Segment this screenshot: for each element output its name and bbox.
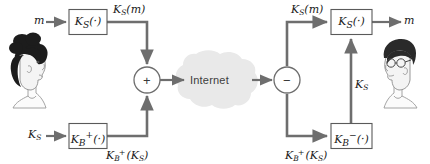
split-operator-label: − xyxy=(283,74,291,87)
box-encrypt-session-key-label: KB+(·) xyxy=(69,130,107,147)
box-decrypt-session-key-label: KB−(·) xyxy=(331,130,372,147)
combine-operator-label: + xyxy=(143,74,151,87)
edge-splitter-to-decrypt-key xyxy=(287,94,327,136)
edge-encrypted-key-to-adder xyxy=(107,96,147,136)
edge-label-encrypted-key-right: KB+(KS) xyxy=(285,150,327,161)
output-message-label: m xyxy=(404,15,414,26)
edge-label-encrypted-message-right: KS(m) xyxy=(291,4,323,15)
input-session-key-label: KS xyxy=(28,129,41,140)
edge-label-encrypted-message-left: KS(m) xyxy=(113,4,145,15)
edge-encrypted-message-to-adder xyxy=(107,22,147,64)
edge-label-recovered-session-key: KS xyxy=(355,79,368,90)
box-encrypt-message-label: KS(·) xyxy=(69,16,107,29)
internet-label: Internet xyxy=(190,74,229,86)
crypto-session-key-diagram: m KS KS(·) KB+(·) KS(·) KB−(·) KS(m) KB+… xyxy=(0,0,430,164)
edge-splitter-to-decrypt-message xyxy=(287,22,327,66)
edge-label-encrypted-key-left: KB+(KS) xyxy=(106,150,148,161)
input-message-label: m xyxy=(34,15,44,26)
box-decrypt-message-label: KS(·) xyxy=(331,16,372,29)
receiver-avatar xyxy=(384,39,417,108)
sender-avatar xyxy=(9,33,48,109)
